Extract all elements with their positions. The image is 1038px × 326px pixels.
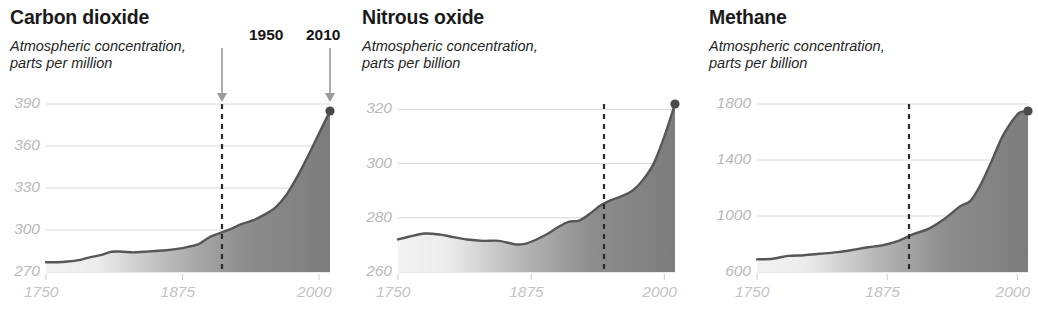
x-axis-tick-label: 2000 bbox=[297, 283, 331, 301]
chart-panel-methane: MethaneAtmospheric concentration, parts … bbox=[699, 0, 1038, 326]
x-axis-tick-label: 1875 bbox=[161, 283, 195, 301]
y-axis-tick-label: 280 bbox=[366, 208, 392, 226]
y-axis-tick-label: 260 bbox=[366, 262, 392, 280]
x-axis-tick-label: 1875 bbox=[509, 283, 543, 301]
y-axis-tick-label: 270 bbox=[14, 262, 40, 280]
down-arrow-icon bbox=[322, 48, 338, 104]
x-axis-tick-label: 1750 bbox=[24, 283, 58, 301]
x-axis-tick-label: 1875 bbox=[865, 283, 899, 301]
x-axis-ticks bbox=[757, 274, 1018, 280]
y-axis-tick-label: 320 bbox=[366, 99, 392, 117]
y-axis-tick-label: 600 bbox=[725, 262, 751, 280]
year-2010-annotation-label: 2010 bbox=[306, 26, 340, 44]
plot-area bbox=[0, 0, 352, 326]
y-axis-tick-label: 1000 bbox=[717, 206, 751, 224]
year-1950-annotation-label: 1950 bbox=[249, 26, 283, 44]
y-axis-tick-label: 1400 bbox=[717, 150, 751, 168]
x-axis-tick-label: 1750 bbox=[735, 283, 769, 301]
y-axis-tick-label: 360 bbox=[14, 136, 40, 154]
chart-panel-nitrous-oxide: Nitrous oxideAtmospheric concentration, … bbox=[352, 0, 699, 326]
series-area-fill bbox=[757, 111, 1028, 272]
y-axis-tick-label: 300 bbox=[366, 154, 392, 172]
endpoint-marker bbox=[670, 99, 679, 108]
x-axis-ticks bbox=[398, 274, 664, 280]
y-axis-tick-label: 330 bbox=[14, 178, 40, 196]
y-axis-tick-label: 390 bbox=[14, 94, 40, 112]
y-axis-tick-label: 1800 bbox=[717, 94, 751, 112]
y-axis-tick-label: 300 bbox=[14, 220, 40, 238]
x-axis-tick-label: 1750 bbox=[376, 283, 410, 301]
x-axis-tick-label: 2000 bbox=[996, 283, 1030, 301]
plot-area bbox=[352, 0, 699, 326]
x-axis-tick-label: 2000 bbox=[642, 283, 676, 301]
down-arrow-icon bbox=[214, 48, 230, 104]
x-axis-ticks bbox=[46, 274, 319, 280]
chart-panel-carbon-dioxide: Carbon dioxideAtmospheric concentration,… bbox=[0, 0, 352, 326]
series-area-fill bbox=[398, 104, 675, 272]
greenhouse-gas-chart-panels: Carbon dioxideAtmospheric concentration,… bbox=[0, 0, 1038, 326]
endpoint-marker bbox=[325, 106, 334, 115]
endpoint-marker bbox=[1023, 106, 1032, 115]
